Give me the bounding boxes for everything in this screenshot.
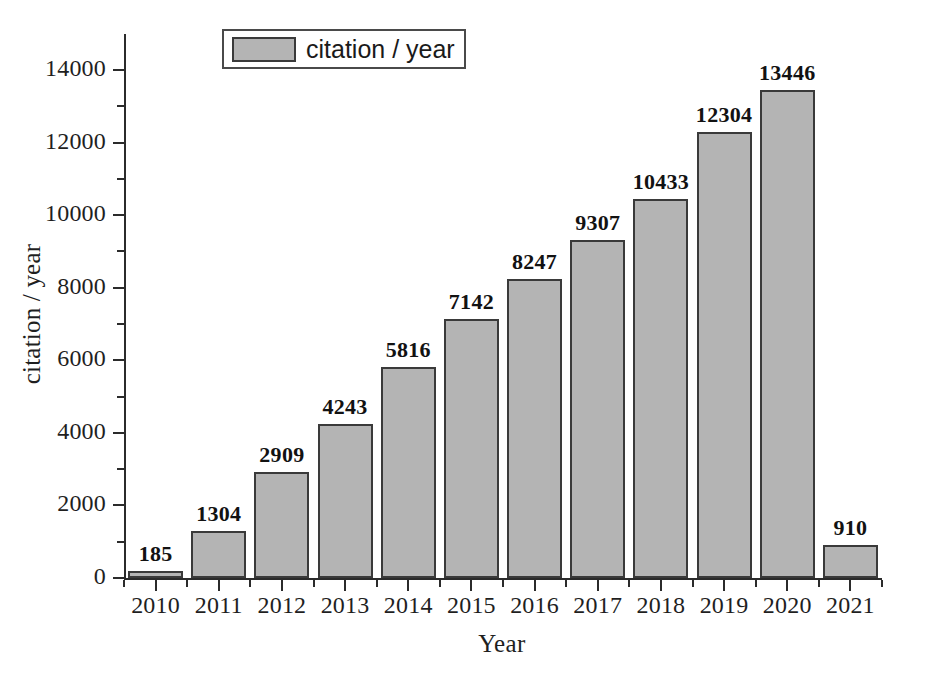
- x-axis-title: Year: [124, 630, 880, 658]
- y-axis-tick-major: [113, 577, 124, 579]
- x-axis-tick-minor: [249, 580, 251, 587]
- y-axis-title: citation / year: [18, 204, 46, 424]
- y-axis-tick-major: [113, 69, 124, 71]
- x-axis-tick-minor: [123, 580, 125, 587]
- x-axis-tick-major: [155, 580, 157, 591]
- x-axis-tick-major: [407, 580, 409, 591]
- y-axis-tick-major: [113, 214, 124, 216]
- y-axis-line: [124, 34, 126, 580]
- bar-value-label: 10433: [606, 169, 716, 195]
- x-axis-tick-major: [597, 580, 599, 591]
- y-axis-tick-major: [113, 287, 124, 289]
- bar: [128, 571, 183, 578]
- y-axis-tick-major: [113, 359, 124, 361]
- bar-value-label: 7142: [416, 289, 526, 315]
- x-axis-tick-major: [218, 580, 220, 591]
- y-axis-tick-major: [113, 142, 124, 144]
- y-axis-tick-label: 6000: [57, 345, 106, 372]
- bar: [633, 199, 688, 578]
- y-axis-tick-minor: [117, 105, 124, 107]
- bar-value-label: 1304: [164, 501, 274, 527]
- bar: [697, 132, 752, 578]
- x-axis-tick-minor: [881, 580, 883, 587]
- y-axis-tick-label: 12000: [45, 128, 106, 155]
- x-axis-tick-minor: [755, 580, 757, 587]
- x-axis-tick-minor: [439, 580, 441, 587]
- x-axis-tick-minor: [818, 580, 820, 587]
- bar: [507, 279, 562, 578]
- bar: [823, 545, 878, 578]
- y-axis-tick-major: [113, 432, 124, 434]
- bar: [760, 90, 815, 578]
- legend-label-citation-per-year: citation / year: [306, 37, 455, 62]
- y-axis-tick-label: 10000: [45, 200, 106, 227]
- x-axis-tick-minor: [376, 580, 378, 587]
- y-axis-tick-minor: [117, 468, 124, 470]
- bar-value-label: 8247: [480, 249, 590, 275]
- bar-value-label: 185: [101, 541, 211, 567]
- legend-swatch-citation-per-year: [232, 37, 296, 62]
- bar-value-label: 13446: [732, 60, 842, 86]
- x-axis-tick-major: [281, 580, 283, 591]
- x-axis-tick-major: [344, 580, 346, 591]
- x-axis-tick-label: 2021: [805, 592, 895, 619]
- x-axis-tick-minor: [313, 580, 315, 587]
- x-axis-tick-minor: [502, 580, 504, 587]
- bar: [570, 240, 625, 578]
- x-axis-tick-minor: [628, 580, 630, 587]
- bar-value-label: 12304: [669, 102, 779, 128]
- legend: citation / year: [222, 29, 466, 69]
- x-axis-tick-major: [470, 580, 472, 591]
- y-axis-tick-label: 14000: [45, 55, 106, 82]
- x-axis-tick-minor: [692, 580, 694, 587]
- x-axis-tick-major: [786, 580, 788, 591]
- bar-value-label: 910: [795, 515, 905, 541]
- y-axis-tick-minor: [117, 178, 124, 180]
- bar-value-label: 4243: [290, 394, 400, 420]
- x-axis-tick-major: [849, 580, 851, 591]
- y-axis-tick-minor: [117, 396, 124, 398]
- x-axis-tick-minor: [565, 580, 567, 587]
- bar-value-label: 9307: [543, 210, 653, 236]
- y-axis-tick-minor: [117, 250, 124, 252]
- bar-value-label: 2909: [227, 442, 337, 468]
- bar-chart-figure: citation / year 020004000600080001000012…: [0, 0, 936, 675]
- x-axis-tick-major: [534, 580, 536, 591]
- y-axis-tick-label: 4000: [57, 418, 106, 445]
- x-axis-tick-minor: [186, 580, 188, 587]
- x-axis-tick-major: [660, 580, 662, 591]
- y-axis-tick-label: 2000: [57, 490, 106, 517]
- bar-value-label: 5816: [353, 337, 463, 363]
- x-axis-tick-major: [723, 580, 725, 591]
- y-axis-tick-label: 8000: [57, 273, 106, 300]
- y-axis-tick-major: [113, 504, 124, 506]
- y-axis-tick-minor: [117, 323, 124, 325]
